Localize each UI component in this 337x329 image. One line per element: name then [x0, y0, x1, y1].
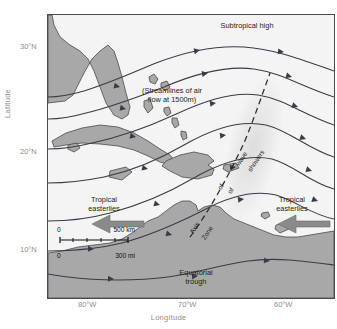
scale-mi-value: 300 mi — [115, 252, 135, 259]
x-tick-label-60w: 60°W — [274, 300, 292, 309]
label-equatorial-trough-line2: trough — [158, 277, 234, 286]
scale-bar: 0 500 km 0 300 mi — [57, 227, 135, 262]
figure-root: Latitude Longitude 30°N 20°N 10°N 80°W 7… — [0, 0, 337, 329]
scale-mi-zero: 0 — [57, 252, 61, 259]
map-panel: Subtropical high (Streamlines of air flo… — [47, 14, 335, 299]
label-tropical-easterlies-right-line2: easterlies — [258, 204, 326, 213]
y-tick-label-30n: 30°N — [20, 42, 37, 51]
label-tropical-easterlies-left-line2: easterlies — [70, 204, 138, 213]
label-tropical-easterlies-right-line1: Tropical — [258, 195, 326, 204]
label-equatorial-trough-line1: Equatorial — [158, 268, 234, 277]
scale-km-value: 500 km — [113, 226, 135, 233]
x-tick-label-80w: 80°W — [78, 300, 96, 309]
scale-bar-ticks — [59, 237, 129, 243]
y-axis-title: Latitude — [3, 89, 12, 118]
scale-km-zero: 0 — [57, 226, 61, 233]
label-streamlines-note-line2: flow at 1500m) — [124, 95, 220, 104]
x-tick-label-70w: 70°W — [178, 300, 196, 309]
x-axis-title: Longitude — [0, 313, 337, 322]
label-subtropical-high: Subtropical high — [192, 21, 302, 30]
label-tropical-easterlies-left-line1: Tropical — [70, 195, 138, 204]
y-tick-label-20n: 20°N — [20, 147, 37, 156]
label-streamlines-note-line1: (Streamlines of air — [124, 86, 220, 95]
y-tick-label-10n: 10°N — [20, 245, 37, 254]
